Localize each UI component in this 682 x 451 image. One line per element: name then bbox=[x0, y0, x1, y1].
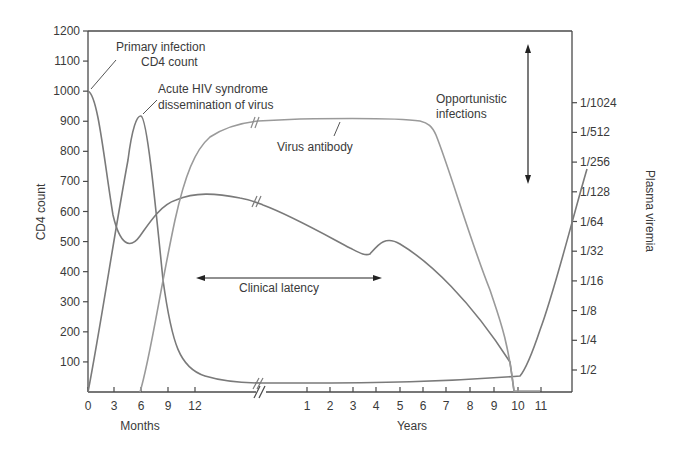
annotation-opportunistic-line1: Opportunistic bbox=[436, 92, 507, 106]
annotation-primary-infection-line1: Primary infection bbox=[116, 40, 205, 54]
y-tick-right-label: 1/256 bbox=[580, 155, 610, 169]
y-tick-right-label: 1/8 bbox=[580, 304, 597, 318]
y-tick-left-label: 600 bbox=[60, 205, 80, 219]
y-axis-left-label: CD4 count bbox=[34, 183, 48, 240]
x-tick-year-label: 8 bbox=[467, 399, 474, 413]
hiv-progression-chart: 100200300400500600700800900100011001200 … bbox=[0, 0, 682, 451]
y-tick-left-label: 200 bbox=[60, 325, 80, 339]
y-tick-left-label: 100 bbox=[60, 355, 80, 369]
annotation-opportunistic-line2: infections bbox=[436, 107, 487, 121]
x-tick-month-label: 3 bbox=[111, 399, 118, 413]
x-tick-year-label: 11 bbox=[535, 399, 548, 413]
chart-svg: 100200300400500600700800900100011001200 … bbox=[0, 0, 682, 451]
y-tick-left-label: 1100 bbox=[54, 54, 80, 68]
x-axis-label-years: Years bbox=[397, 419, 427, 433]
annotation-virus-antibody: Virus antibody bbox=[277, 140, 353, 154]
x-tick-month-label: 0 bbox=[85, 399, 92, 413]
annotation-acute-hiv-line1: Acute HIV syndrome bbox=[158, 82, 268, 96]
y-tick-left-label: 400 bbox=[60, 265, 80, 279]
x-axis-label-months: Months bbox=[120, 419, 159, 433]
x-tick-month-label: 6 bbox=[138, 399, 145, 413]
y-tick-left-label: 1200 bbox=[53, 24, 80, 38]
x-tick-year-label: 3 bbox=[350, 399, 357, 413]
x-tick-year-label: 9 bbox=[491, 399, 498, 413]
y-tick-right-label: 1/2 bbox=[580, 363, 597, 377]
annotation-acute-hiv-line2: dissemination of virus bbox=[158, 98, 273, 112]
y-tick-left-label: 700 bbox=[60, 174, 80, 188]
cd4-count-line bbox=[88, 91, 514, 391]
x-tick-year-label: 4 bbox=[373, 399, 380, 413]
opportunistic-infections-arrow bbox=[525, 44, 531, 184]
y-axis-left-ticks: 100200300400500600700800900100011001200 bbox=[53, 24, 88, 369]
y-tick-right-label: 1/32 bbox=[580, 244, 604, 258]
x-tick-month-label: 9 bbox=[165, 399, 172, 413]
y-tick-right-label: 1/1024 bbox=[580, 96, 617, 110]
x-tick-year-label: 5 bbox=[397, 399, 404, 413]
y-tick-left-label: 300 bbox=[60, 295, 80, 309]
annotation-primary-infection-line2: CD4 count bbox=[141, 55, 198, 69]
annotation-clinical-latency: Clinical latency bbox=[239, 281, 319, 295]
x-tick-year-label: 7 bbox=[443, 399, 450, 413]
y-tick-right-label: 1/128 bbox=[580, 185, 610, 199]
x-tick-year-label: 6 bbox=[420, 399, 427, 413]
y-tick-right-label: 1/512 bbox=[580, 125, 610, 139]
y-axis-right-label: Plasma viremia bbox=[643, 170, 657, 252]
x-tick-year-label: 2 bbox=[327, 399, 334, 413]
virus-antibody-line bbox=[140, 118, 540, 392]
y-tick-left-label: 900 bbox=[60, 114, 80, 128]
x-tick-month-label: 12 bbox=[188, 399, 202, 413]
y-tick-right-label: 1/16 bbox=[580, 274, 604, 288]
y-tick-left-label: 800 bbox=[60, 144, 80, 158]
x-tick-year-label: 1 bbox=[304, 399, 311, 413]
plasma-viremia-line bbox=[88, 116, 587, 392]
y-axis-right-ticks: 1/21/41/81/161/321/641/1281/2561/5121/10… bbox=[572, 96, 617, 377]
x-axis-ticks: 0369121234567891011 bbox=[85, 387, 548, 413]
y-tick-left-label: 1000 bbox=[53, 84, 80, 98]
y-tick-left-label: 500 bbox=[60, 235, 80, 249]
y-tick-right-label: 1/4 bbox=[580, 333, 597, 347]
x-tick-year-label: 10 bbox=[511, 399, 525, 413]
y-tick-right-label: 1/64 bbox=[580, 215, 604, 229]
